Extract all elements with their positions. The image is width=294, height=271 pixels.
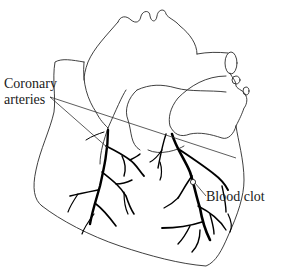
leader-lines (50, 97, 236, 196)
coronary-arteries-label: Coronary arteries (4, 76, 57, 108)
heart-illustration (0, 0, 294, 271)
heart-outline (34, 10, 249, 266)
coronary-leader-lower (50, 97, 108, 148)
coronary-label-line1: Coronary (4, 76, 57, 92)
blood-clot-label: Blood clot (206, 189, 265, 205)
coronary-label-line2: arteries (4, 92, 57, 108)
blood-clot-marker (190, 179, 195, 184)
coronary-leader-upper (50, 97, 236, 158)
heart-diagram: Coronary arteries Blood clot (0, 0, 294, 271)
